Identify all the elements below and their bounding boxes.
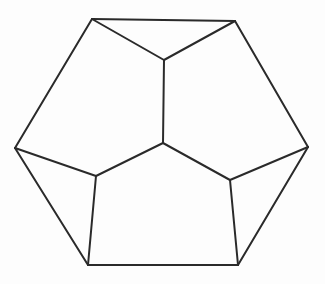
edge-A-D [15, 19, 92, 148]
diagram-canvas [0, 0, 325, 284]
edge-D-I [15, 148, 88, 265]
edge-H-J [230, 180, 238, 265]
edge-F-H [163, 143, 230, 180]
edge-A-C [92, 19, 164, 60]
edge-E-J [238, 147, 308, 265]
edge-group [15, 19, 308, 265]
edge-D-G [15, 148, 96, 176]
polyhedron-diagram [0, 0, 325, 284]
edge-B-C [164, 21, 235, 60]
edge-A-B [92, 19, 235, 21]
edge-B-E [235, 21, 308, 147]
edge-F-G [96, 143, 163, 176]
edge-E-H [230, 147, 308, 180]
edge-G-I [88, 176, 96, 265]
edge-C-F [163, 60, 164, 143]
